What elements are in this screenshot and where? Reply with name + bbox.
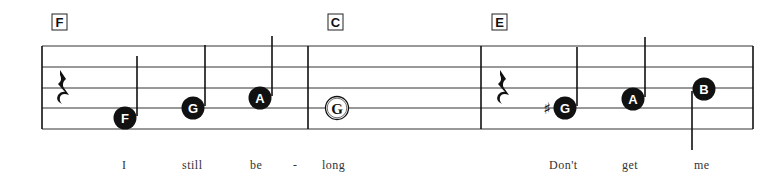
note-label: A — [628, 92, 638, 107]
note-a: A — [622, 37, 646, 111]
note-label: B — [699, 82, 708, 97]
note-g: G — [182, 45, 206, 120]
note-label: A — [255, 91, 265, 106]
note-a: A — [249, 36, 273, 110]
sharp-icon: ♯ — [543, 99, 551, 118]
note-label: G — [188, 101, 198, 116]
chord-box-f: F — [52, 14, 67, 30]
lyric-syllable: be — [250, 158, 262, 173]
chord-box-e: E — [492, 14, 507, 30]
quarter-rest-icon — [57, 70, 69, 104]
chord-label: C — [331, 15, 341, 30]
note-label: G — [560, 101, 570, 116]
chord-label: E — [495, 15, 504, 30]
lyric-syllable: long — [322, 158, 345, 173]
lyric-syllable: I — [122, 158, 127, 173]
lyric-syllable: me — [694, 158, 710, 173]
quarter-rest-icon — [497, 70, 509, 104]
lyric-hyphen: - — [293, 158, 298, 173]
note-label: F — [121, 111, 129, 126]
music-staff: F C E F G A G — [0, 0, 784, 187]
chord-box-c: C — [328, 14, 343, 30]
lyric-syllable: still — [182, 158, 203, 173]
lyric-syllable: get — [622, 158, 638, 173]
chord-label: F — [56, 15, 64, 30]
note-g-open: G — [326, 97, 349, 120]
note-b: B — [692, 78, 716, 151]
note-g-sharp: ♯ G — [543, 47, 577, 120]
lyric-syllable: Don't — [549, 158, 578, 173]
staff-lines — [42, 46, 753, 129]
note-label: G — [331, 101, 343, 117]
